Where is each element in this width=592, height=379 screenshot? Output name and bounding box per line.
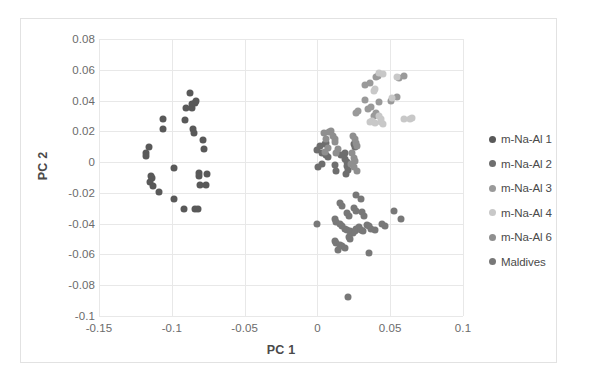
x-tick-label: 0.1	[455, 322, 471, 334]
x-axis-title: PC 1	[99, 343, 463, 357]
gridline-horizontal	[99, 70, 463, 71]
y-axis-title: PC 2	[36, 126, 50, 206]
legend-item-label: m-Na-Al 3	[501, 182, 552, 194]
scatter-point	[160, 126, 167, 133]
gridline-horizontal	[99, 316, 463, 317]
scatter-point	[360, 212, 367, 219]
scatter-point	[352, 208, 359, 215]
x-tick-label: -0.05	[231, 322, 258, 334]
gridline-horizontal	[99, 193, 463, 194]
legend-item-label: m-Na-Al 6	[501, 231, 552, 243]
legend-item[interactable]: m-Na-Al 3	[489, 176, 575, 201]
gridline-vertical	[245, 39, 246, 316]
scatter-point	[156, 188, 163, 195]
gridline-vertical	[390, 39, 391, 316]
gridline-vertical	[99, 39, 100, 316]
scatter-point	[346, 236, 353, 243]
legend-marker-icon	[489, 160, 496, 167]
scatter-point	[331, 138, 338, 145]
legend-marker-icon	[489, 185, 496, 192]
scatter-point	[388, 94, 395, 101]
scatter-point	[334, 247, 341, 254]
gridline-horizontal	[99, 254, 463, 255]
y-tick-label: 0.02	[72, 125, 95, 137]
legend-item-label: Maldives	[501, 256, 546, 268]
legend-item[interactable]: m-Na-Al 1	[489, 127, 575, 152]
legend-marker-icon	[489, 209, 496, 216]
x-tick-label: -0.15	[86, 322, 113, 334]
scatter-point	[379, 71, 386, 78]
scatter-point	[372, 85, 379, 92]
x-tick-label: 0	[314, 322, 321, 334]
scatter-point	[314, 164, 321, 171]
y-axis-tick-labels: 0.080.060.040.020-0.02-0.04-0.06-0.08-0.…	[45, 39, 95, 316]
scatter-point	[202, 181, 209, 188]
legend-item[interactable]: m-Na-Al 4	[489, 201, 575, 226]
scatter-point	[354, 143, 361, 150]
scatter-point	[159, 116, 166, 123]
scatter-point	[203, 171, 210, 178]
scatter-point	[341, 244, 348, 251]
gridline-vertical	[463, 39, 464, 316]
chart-legend: m-Na-Al 1m-Na-Al 2m-Na-Al 3m-Na-Al 4m-Na…	[489, 127, 575, 274]
scatter-point	[367, 104, 374, 111]
scatter-point	[170, 195, 177, 202]
scatter-point	[336, 200, 343, 207]
scatter-point	[375, 99, 382, 106]
scatter-point	[170, 165, 177, 172]
scatter-point	[192, 97, 199, 104]
scatter-point	[333, 149, 340, 156]
gridline-horizontal	[99, 131, 463, 132]
scatter-point	[194, 205, 201, 212]
legend-marker-icon	[489, 258, 496, 265]
scatter-point	[322, 148, 329, 155]
scatter-point	[196, 172, 203, 179]
y-tick-label: 0	[89, 156, 96, 168]
x-tick-label: -0.1	[162, 322, 182, 334]
scatter-point	[180, 205, 187, 212]
plot-area	[99, 39, 463, 316]
x-tick-label: 0.05	[379, 322, 402, 334]
scatter-point	[361, 97, 368, 104]
scatter-point	[343, 171, 350, 178]
y-tick-label: -0.06	[68, 248, 95, 260]
legend-marker-icon	[489, 136, 496, 143]
scatter-point	[355, 108, 362, 115]
legend-item[interactable]: m-Na-Al 6	[489, 225, 575, 250]
scatter-point	[381, 222, 388, 229]
scatter-point	[346, 212, 353, 219]
legend-item[interactable]: Maldives	[489, 250, 575, 275]
scatter-point	[143, 152, 150, 159]
x-axis-tick-labels: -0.15-0.1-0.0500.050.1	[99, 322, 463, 340]
gridline-vertical	[317, 39, 318, 316]
y-tick-label: -0.1	[75, 310, 95, 322]
legend-marker-icon	[489, 234, 496, 241]
scatter-point	[365, 249, 372, 256]
scatter-point	[393, 74, 400, 81]
scatter-point	[200, 145, 207, 152]
scatter-point	[186, 90, 193, 97]
gridline-horizontal	[99, 101, 463, 102]
scatter-point	[409, 115, 416, 122]
legend-item[interactable]: m-Na-Al 2	[489, 152, 575, 177]
scatter-point	[333, 168, 340, 175]
y-tick-label: 0.06	[72, 64, 95, 76]
scatter-point	[200, 137, 207, 144]
scatter-point	[149, 182, 156, 189]
scatter-point	[400, 72, 407, 79]
scatter-point	[391, 208, 398, 215]
scatter-point	[182, 117, 189, 124]
y-tick-label: 0.04	[72, 95, 95, 107]
gridline-horizontal	[99, 39, 463, 40]
gridline-horizontal	[99, 224, 463, 225]
scatter-point	[350, 164, 357, 171]
scatter-point	[379, 120, 386, 127]
y-tick-label: -0.08	[68, 279, 95, 291]
gridline-vertical	[172, 39, 173, 316]
scatter-point	[397, 215, 404, 222]
scatter-point	[372, 120, 379, 127]
y-tick-label: 0.08	[72, 33, 95, 45]
legend-item-label: m-Na-Al 4	[501, 207, 552, 219]
scatter-point	[190, 130, 197, 137]
y-tick-label: -0.04	[68, 218, 95, 230]
